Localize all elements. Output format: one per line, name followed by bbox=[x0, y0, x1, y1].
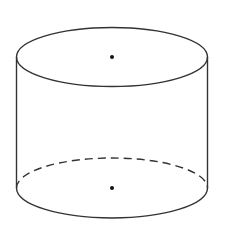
top-center-point bbox=[110, 55, 114, 59]
cylinder-svg bbox=[0, 0, 228, 241]
bottom-center-point bbox=[110, 186, 114, 190]
bottom-base-hidden-arc bbox=[17, 158, 208, 188]
cylinder-diagram bbox=[0, 0, 228, 241]
bottom-base-front-arc bbox=[17, 188, 208, 218]
